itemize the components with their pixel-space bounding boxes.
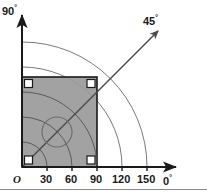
selection-handle-top-left[interactable]	[25, 80, 33, 88]
selection-handle-bottom-right[interactable]	[87, 156, 95, 164]
ray-angle-value: 45	[143, 15, 155, 27]
ray-angle-degree-symbol: °	[155, 14, 158, 21]
selection-handle-bottom-left[interactable]	[25, 156, 33, 164]
selected-square[interactable]	[22, 77, 97, 167]
bottom-divider	[0, 189, 207, 190]
x-tick-label-30: 30	[40, 174, 52, 185]
x-tick-label-150: 150	[137, 174, 155, 185]
x-tick-label-120: 120	[112, 174, 130, 185]
polar-grid-svg	[0, 0, 207, 195]
x-axis-degree-symbol: °	[169, 174, 172, 181]
y-axis-label-value: 90	[2, 5, 14, 17]
y-axis-degree-symbol: °	[14, 4, 17, 11]
ray-angle-label: 45°	[143, 14, 158, 27]
y-axis-label: 90°	[2, 4, 17, 17]
x-axis-label: 0°	[163, 174, 172, 187]
origin-label: O	[13, 174, 21, 185]
x-tick-label-60: 60	[65, 174, 77, 185]
diagram-figure: 90° 45° O 30 60 90 120 150 0°	[0, 0, 207, 195]
x-tick-label-90: 90	[90, 174, 102, 185]
selection-handle-top-right[interactable]	[87, 80, 95, 88]
